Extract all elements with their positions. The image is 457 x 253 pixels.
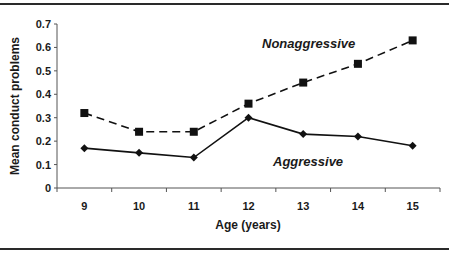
y-axis-title: Mean conduct problems xyxy=(8,37,22,175)
x-tick-label: 10 xyxy=(133,200,145,212)
x-tick-label: 15 xyxy=(407,200,419,212)
diamond-marker xyxy=(135,149,143,157)
diamond-marker xyxy=(409,142,417,150)
x-tick-label: 12 xyxy=(242,200,254,212)
square-marker xyxy=(245,100,253,108)
x-tick-label: 14 xyxy=(352,200,365,212)
series-line-aggressive xyxy=(84,118,412,158)
square-marker xyxy=(190,128,198,136)
y-tick-label: 0.7 xyxy=(36,18,51,30)
diamond-marker xyxy=(80,144,88,152)
y-tick-label: 0.2 xyxy=(36,135,51,147)
series-group xyxy=(80,36,416,161)
y-tick-label: 0.6 xyxy=(36,41,51,53)
y-tick-label: 0.4 xyxy=(36,88,52,100)
axes: 00.10.20.30.40.50.60.79101112131415 xyxy=(36,18,440,212)
x-tick-label: 11 xyxy=(188,200,200,212)
y-tick-label: 0 xyxy=(45,182,51,194)
square-marker xyxy=(409,36,417,44)
y-tick-label: 0.5 xyxy=(36,65,51,77)
y-tick-label: 0.1 xyxy=(36,159,51,171)
square-marker xyxy=(354,60,362,68)
series-label-aggressive: Aggressive xyxy=(272,154,343,169)
line-chart: 00.10.20.30.40.50.60.79101112131415 Mean… xyxy=(0,0,457,253)
x-tick-label: 13 xyxy=(297,200,309,212)
x-tick-label: 9 xyxy=(81,200,87,212)
x-axis-title: Age (years) xyxy=(215,218,280,232)
diamond-marker xyxy=(354,132,362,140)
square-marker xyxy=(299,79,307,87)
square-marker xyxy=(80,109,88,117)
series-label-nonaggressive: Nonaggressive xyxy=(262,36,355,51)
y-tick-label: 0.3 xyxy=(36,112,51,124)
diamond-marker xyxy=(299,130,307,138)
square-marker xyxy=(135,128,143,136)
